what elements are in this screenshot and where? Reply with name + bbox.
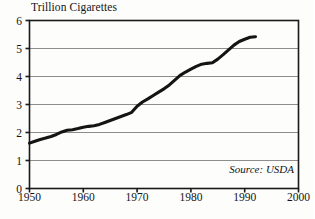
cigarette-production-chart: Trillion Cigarettes 0123456 195019601970… — [0, 0, 314, 219]
x-tick-label: 1960 — [63, 191, 103, 203]
x-tick-label: 1980 — [171, 191, 211, 203]
x-tick-label: 1950 — [10, 191, 50, 203]
gridlines — [30, 49, 299, 161]
series-line — [30, 37, 256, 143]
y-tick-label: 6 — [2, 15, 22, 27]
plot-area — [0, 0, 314, 219]
data-line-series — [30, 37, 256, 143]
y-tick-label: 5 — [2, 43, 22, 55]
y-tick-label: 3 — [2, 99, 22, 111]
x-tick-label: 1990 — [225, 191, 265, 203]
x-tick-label: 2000 — [279, 191, 315, 203]
y-tick-label: 1 — [2, 155, 22, 167]
y-tick-label: 2 — [2, 127, 22, 139]
y-tick-label: 4 — [2, 71, 22, 83]
x-tick-label: 1970 — [117, 191, 157, 203]
source-annotation: Source: USDA — [229, 163, 294, 175]
